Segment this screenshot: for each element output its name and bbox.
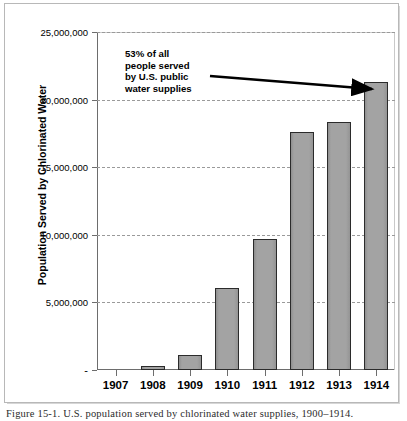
y-axis-tick-label: 10,000,000 — [40, 229, 88, 240]
figure-caption: Figure 15-1. U.S. population served by c… — [6, 408, 402, 419]
annotation-line-4: water supplies — [125, 83, 221, 95]
figure-frame: Population Served by Chlorinated Water -… — [4, 3, 399, 403]
x-axis-tick-label-1913: 1913 — [326, 379, 352, 391]
y-axis-tick-label: - — [84, 364, 88, 376]
callout-annotation: 53% of allpeople servedby U.S. publicwat… — [125, 48, 221, 94]
y-axis-tick-label: 5,000,000 — [46, 297, 88, 308]
x-axis-tick-mark — [302, 370, 303, 376]
bar-slot: 1911 — [246, 32, 283, 370]
bar-1910[interactable] — [215, 288, 239, 370]
bar-1909[interactable] — [178, 355, 202, 370]
x-axis-tick-label-1910: 1910 — [215, 379, 241, 391]
bar-1914[interactable] — [364, 82, 388, 370]
y-axis-tick-label: 20,000,000 — [40, 94, 88, 105]
x-axis-tick-label-1908: 1908 — [140, 379, 166, 391]
annotation-line-1: 53% of all — [125, 48, 221, 60]
x-axis-tick-label-1907: 1907 — [103, 379, 129, 391]
bar-slot: 1913 — [321, 32, 358, 370]
x-axis-tick-mark — [116, 370, 117, 376]
x-axis-tick-mark — [153, 370, 154, 376]
x-axis-tick-label-1914: 1914 — [364, 379, 390, 391]
y-axis-tick-label: 25,000,000 — [40, 27, 88, 38]
bar-1911[interactable] — [253, 239, 277, 370]
x-axis-tick-label-1909: 1909 — [177, 379, 203, 391]
bar-1912[interactable] — [290, 132, 314, 370]
bar-slot: 1912 — [283, 32, 320, 370]
x-axis-tick-label-1911: 1911 — [252, 379, 277, 391]
bar-1913[interactable] — [327, 122, 351, 370]
y-axis-tick-mark — [92, 370, 97, 371]
x-axis-tick-mark — [265, 370, 266, 376]
x-axis-tick-mark — [376, 370, 377, 376]
y-axis-tick-label: 15,000,000 — [40, 162, 88, 173]
x-axis-tick-mark — [190, 370, 191, 376]
bar-slot: 1914 — [358, 32, 395, 370]
x-axis-tick-label-1912: 1912 — [289, 379, 315, 391]
x-axis-tick-mark — [227, 370, 228, 376]
x-axis-tick-mark — [339, 370, 340, 376]
annotation-line-2: people served — [125, 60, 221, 72]
annotation-line-3: by U.S. public — [125, 71, 221, 83]
